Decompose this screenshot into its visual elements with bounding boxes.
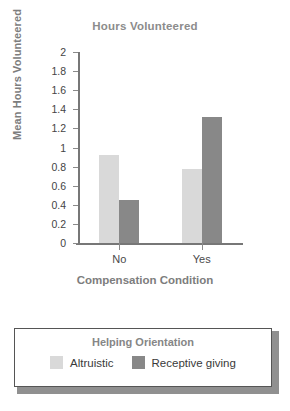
y-axis-tick-label: 1.8 <box>51 65 66 77</box>
x-axis-title: Compensation Condition <box>0 274 290 286</box>
y-axis-tick-label: 0.8 <box>51 161 66 173</box>
y-axis-tick-label: 1.6 <box>51 84 66 96</box>
legend-label: Altruistic <box>70 357 113 369</box>
legend-item-list: AltruisticReceptive giving <box>15 356 271 369</box>
y-axis-tick-label: 1.4 <box>51 103 66 115</box>
y-axis-tick: 1.4 <box>73 109 78 110</box>
plot-area: 00.20.40.60.811.21.41.61.82 NoYes <box>78 52 243 243</box>
y-axis-tick: 0.2 <box>73 224 78 225</box>
x-axis-tick <box>202 243 203 250</box>
y-axis-tick-label: 0 <box>60 237 66 249</box>
y-axis-tick: 1.2 <box>73 128 78 129</box>
bar <box>119 200 139 243</box>
y-axis-tick-label: 1 <box>60 142 66 154</box>
y-axis-title: Mean Hours Volunteered <box>11 9 23 140</box>
chart-title: Hours Volunteered <box>0 20 290 32</box>
y-axis-tick: 0.8 <box>73 167 78 168</box>
legend-item: Receptive giving <box>132 356 236 369</box>
x-axis-tick-label: Yes <box>193 253 211 265</box>
bar <box>99 155 119 243</box>
y-axis-tick: 1 <box>73 148 78 149</box>
y-axis-tick: 1.8 <box>73 71 78 72</box>
y-axis-tick-label: 0.4 <box>51 199 66 211</box>
bar <box>202 117 222 243</box>
y-axis-tick: 0.4 <box>73 205 78 206</box>
y-axis-tick: 2 <box>73 52 78 53</box>
y-axis-tick: 1.6 <box>73 90 78 91</box>
bar <box>182 169 202 243</box>
y-axis-tick: 0 <box>73 243 78 244</box>
legend-swatch-icon <box>50 356 63 369</box>
y-axis-line <box>78 52 80 243</box>
x-axis-line <box>76 243 243 245</box>
y-axis-tick-label: 1.2 <box>51 122 66 134</box>
legend-label: Receptive giving <box>152 357 236 369</box>
x-axis-tick <box>119 243 120 250</box>
legend-item: Altruistic <box>50 356 113 369</box>
y-axis-tick-label: 2 <box>60 46 66 58</box>
chart-figure: Hours Volunteered Mean Hours Volunteered… <box>0 0 290 411</box>
y-axis-tick-label: 0.2 <box>51 218 66 230</box>
y-axis-tick-label: 0.6 <box>51 180 66 192</box>
x-axis-tick-label: No <box>112 253 126 265</box>
legend-swatch-icon <box>132 356 145 369</box>
legend-title: Helping Orientation <box>15 336 271 348</box>
y-axis-tick: 0.6 <box>73 186 78 187</box>
chart-legend: Helping Orientation AltruisticReceptive … <box>14 328 272 387</box>
